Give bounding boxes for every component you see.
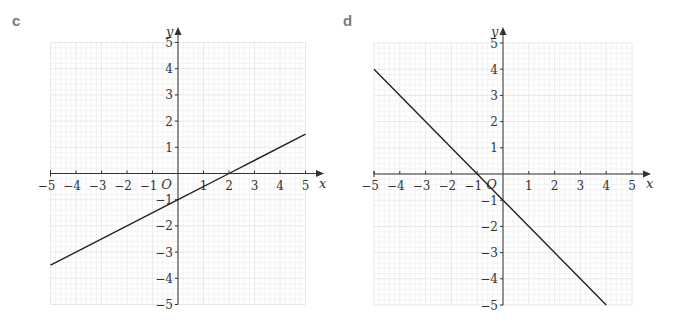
y-tick-label: −5 bbox=[480, 299, 498, 313]
x-tick-label: −3 bbox=[413, 179, 431, 193]
y-tick-label: −2 bbox=[480, 220, 498, 234]
x-tick-label: 1 bbox=[525, 179, 533, 193]
x-tick-label: 5 bbox=[628, 179, 636, 193]
y-tick-label: 3 bbox=[490, 89, 498, 103]
x-axis-label: x bbox=[646, 176, 654, 191]
y-tick-label: −1 bbox=[480, 194, 498, 208]
x-tick-label: 4 bbox=[602, 179, 610, 193]
graph-d: d −5−4−3−2−112345−5−4−3−2−112345Oxy bbox=[0, 0, 676, 332]
y-axis-arrow-icon bbox=[500, 27, 507, 35]
x-tick-label: −5 bbox=[361, 179, 379, 193]
x-tick-label: −2 bbox=[439, 179, 457, 193]
y-tick-label: −3 bbox=[480, 246, 498, 260]
graph-d-plot: −5−4−3−2−112345−5−4−3−2−112345Oxy bbox=[0, 0, 676, 332]
y-tick-label: 4 bbox=[490, 63, 498, 77]
y-axis-label: y bbox=[490, 24, 499, 39]
x-tick-label: 3 bbox=[577, 179, 585, 193]
y-tick-label: 1 bbox=[490, 141, 498, 155]
x-tick-label: 2 bbox=[551, 179, 559, 193]
x-tick-label: −1 bbox=[464, 179, 482, 193]
y-tick-label: −4 bbox=[480, 272, 498, 286]
y-tick-label: 2 bbox=[490, 115, 498, 129]
x-tick-label: −4 bbox=[387, 179, 405, 193]
plotted-line bbox=[374, 69, 606, 305]
